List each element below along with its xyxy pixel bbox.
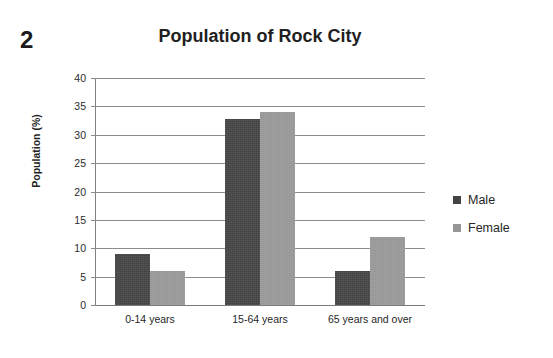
y-tick-label-35: 35	[74, 100, 86, 112]
legend-swatch-icon-male	[453, 196, 461, 204]
y-tick-25	[91, 163, 95, 164]
y-tick-30	[91, 135, 95, 136]
y-tick-label-20: 20	[74, 186, 86, 198]
bar-male-1	[225, 119, 260, 305]
legend-item-female: Female	[453, 214, 510, 242]
bar-male-0	[115, 254, 150, 305]
y-tick-label-5: 5	[80, 271, 86, 283]
x-tick-label-0: 0-14 years	[125, 313, 175, 325]
bar-female-1	[260, 112, 295, 305]
bar-male-2	[335, 271, 370, 305]
y-tick-20	[91, 192, 95, 193]
gridline-35	[95, 106, 425, 107]
y-tick-15	[91, 220, 95, 221]
bar-chart-figure: Population of Rock City Population (%) 0…	[0, 0, 553, 358]
gridline-40	[95, 78, 425, 79]
bar-female-0	[150, 271, 185, 305]
plot-area: 0510152025303540 0-14 years15-64 years65…	[95, 78, 425, 305]
chart-title: Population of Rock City	[95, 26, 425, 47]
y-tick-0	[91, 305, 95, 306]
legend-label-female: Female	[468, 221, 510, 235]
y-tick-35	[91, 106, 95, 107]
legend-swatch-icon-female	[453, 224, 461, 232]
y-tick-label-40: 40	[74, 72, 86, 84]
y-axis-title: Population (%)	[30, 71, 42, 231]
bar-female-2	[370, 237, 405, 305]
x-tick-label-1: 15-64 years	[232, 313, 287, 325]
x-tick-label-2: 65 years and over	[328, 313, 412, 325]
y-tick-label-25: 25	[74, 157, 86, 169]
y-tick-label-15: 15	[74, 214, 86, 226]
chart-legend: MaleFemale	[453, 186, 510, 242]
y-tick-label-10: 10	[74, 242, 86, 254]
legend-label-male: Male	[468, 193, 495, 207]
y-tick-label-30: 30	[74, 129, 86, 141]
legend-item-male: Male	[453, 186, 510, 214]
y-tick-5	[91, 277, 95, 278]
y-tick-10	[91, 248, 95, 249]
y-tick-label-0: 0	[80, 299, 86, 311]
gridline-0	[95, 305, 425, 306]
y-tick-40	[91, 78, 95, 79]
